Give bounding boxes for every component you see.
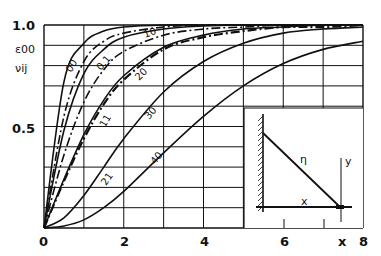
x-tick-2: 2: [120, 234, 129, 249]
inset-eta-label: η: [300, 153, 307, 166]
y-label-nu: νij: [15, 62, 27, 75]
curve-label-20: 20: [133, 66, 150, 83]
inset-diagram: η y x: [244, 108, 363, 228]
curve-label-10: 10: [142, 25, 158, 40]
x-tick-4: 4: [200, 234, 209, 249]
curve-label-30: 30: [142, 104, 159, 121]
inset-y-label: y: [345, 155, 352, 168]
x-tick-8: 8: [359, 234, 368, 249]
curve-label-21: 21: [99, 170, 115, 187]
curve-label-40: 40: [148, 149, 165, 166]
chart: η y x 1.0 0.5 ε00 νij 0 2 4 6 x 8 00 0.1…: [0, 0, 381, 256]
x-tick-6: 6: [280, 234, 289, 249]
y-tick-0.5: 0.5: [12, 121, 35, 136]
x-tick-0: 0: [39, 234, 48, 249]
y-label-eps: ε00: [15, 43, 35, 56]
inset-x-label: x: [301, 195, 308, 208]
x-axis-label: x: [338, 234, 347, 249]
y-tick-1.0: 1.0: [12, 18, 35, 33]
